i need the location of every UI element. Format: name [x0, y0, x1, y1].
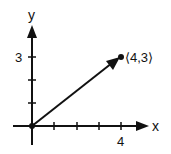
origin-point: [29, 123, 35, 129]
vector-label: ⟨4,3⟩: [125, 50, 153, 65]
vector-arrowhead: [106, 57, 120, 70]
terminal-point: [118, 54, 124, 60]
y-axis-arrowhead: [27, 25, 37, 38]
y-axis-label: y: [28, 7, 35, 23]
vector-diagram: y x 3 4 ⟨4,3⟩: [0, 0, 171, 154]
x-axis-label: x: [152, 118, 159, 134]
vector-shaft: [32, 63, 112, 126]
x-tick-label-4: 4: [117, 134, 124, 149]
x-axis-arrowhead: [136, 121, 149, 131]
y-tick-label-3: 3: [15, 50, 22, 65]
